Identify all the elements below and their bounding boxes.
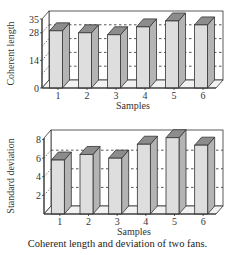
- bar-front: [166, 138, 179, 214]
- bar-side: [208, 137, 215, 214]
- bar-2: [80, 146, 100, 214]
- bar-front: [195, 145, 208, 214]
- bar-side: [64, 152, 71, 214]
- bar-4: [137, 136, 157, 214]
- bar-front: [51, 160, 64, 214]
- bar-side: [93, 146, 100, 214]
- x-tick-label: 6: [201, 216, 206, 227]
- x-tick-label: 2: [86, 216, 91, 227]
- bar-6: [195, 137, 215, 214]
- bar-side: [150, 136, 157, 214]
- y-axis-title: Standard deviation: [5, 138, 16, 213]
- x-axis-title: Samples: [117, 226, 151, 237]
- y-tick-label: 8: [36, 134, 41, 145]
- bar-side: [179, 130, 186, 214]
- bar-front: [80, 154, 93, 214]
- bar-front: [109, 158, 122, 214]
- bar-front: [137, 144, 150, 214]
- figure-caption: Coherent length and deviation of two fan…: [0, 238, 235, 249]
- bar-3: [109, 150, 129, 214]
- y-tick-label: 4: [36, 171, 41, 182]
- standard-deviation-chart: 1234562468SamplesStandard deviation: [0, 0, 235, 240]
- left-wall: [44, 130, 51, 214]
- figure: 1234560142835SamplesCoherent length 1234…: [0, 0, 235, 255]
- bar-side: [122, 150, 129, 214]
- x-tick-label: 1: [57, 216, 62, 227]
- y-tick-label: 6: [36, 153, 41, 164]
- bar-5: [166, 130, 186, 214]
- bar-1: [51, 152, 71, 214]
- x-tick-label: 5: [172, 216, 177, 227]
- y-tick-label: 2: [36, 190, 41, 201]
